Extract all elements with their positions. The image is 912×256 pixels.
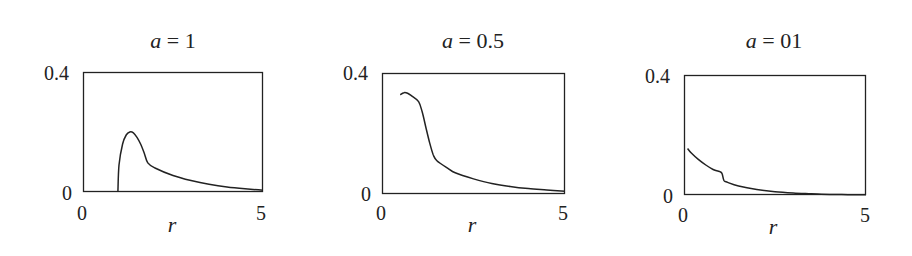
x-axis-label: r [769,214,778,240]
y-tick-bottom: 0 [663,186,673,206]
subplot-a01: a = 01 0.4 0 0 5 r [0,0,912,256]
y-tick-top: 0.4 [645,66,670,86]
axes-frame [685,76,866,195]
x-tick-left: 0 [678,205,688,225]
x-tick-right: 5 [860,205,870,225]
plot-area [684,75,866,195]
subplot-title: a = 01 [746,28,802,54]
data-line [688,149,866,195]
